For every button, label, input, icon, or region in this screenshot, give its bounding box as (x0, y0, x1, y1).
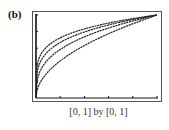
curve-line (36, 15, 157, 98)
curves (36, 15, 157, 98)
axes (36, 14, 158, 98)
curve-line (36, 15, 157, 98)
curve-line (36, 15, 157, 98)
curve-line (36, 15, 157, 98)
window-label: [0, 1] by [0, 1] (0, 106, 169, 117)
